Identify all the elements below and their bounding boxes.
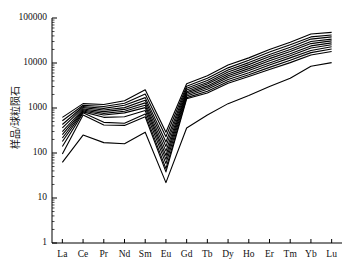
axis-lines <box>52 18 342 243</box>
plot-area <box>0 0 349 268</box>
ree-spider-diagram: 样品/球粒陨石 100000100001000100101 LaCePrNdSm… <box>0 0 349 268</box>
y-axis-ticks <box>52 18 57 243</box>
x-axis-ticks <box>62 239 331 243</box>
series-line <box>62 63 331 183</box>
series-lines <box>62 32 331 182</box>
series-line <box>62 47 331 164</box>
